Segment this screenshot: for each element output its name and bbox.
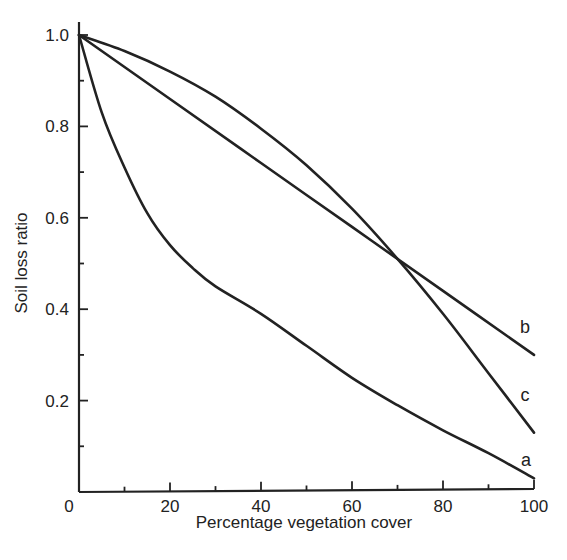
x-axis-title: Percentage vegetation cover — [196, 513, 413, 532]
curve-label-a: a — [521, 450, 532, 470]
y-tick-label: 0.6 — [45, 209, 69, 228]
x-axis: 020406080100 — [64, 480, 548, 516]
y-tick-label: 0.8 — [45, 117, 69, 136]
y-axis-title: Soil loss ratio — [12, 212, 31, 313]
y-tick-label: 1.0 — [45, 26, 69, 45]
x-tick-label: 20 — [161, 497, 180, 516]
y-axis: 0.20.40.60.81.0 — [45, 22, 88, 492]
x-tick-label: 100 — [520, 497, 548, 516]
x-tick-label: 0 — [64, 497, 73, 516]
curve-b — [79, 35, 534, 355]
x-tick-label: 80 — [434, 497, 453, 516]
curve-label-c: c — [521, 385, 530, 405]
curve-a — [79, 35, 534, 478]
curve-label-b: b — [520, 317, 530, 337]
soil-loss-chart: 0.20.40.60.81.0 020406080100 abc Percent… — [0, 0, 567, 560]
curves: abc — [79, 35, 534, 478]
y-tick-label: 0.2 — [45, 392, 69, 411]
curve-c — [79, 35, 534, 433]
y-tick-label: 0.4 — [45, 300, 69, 319]
